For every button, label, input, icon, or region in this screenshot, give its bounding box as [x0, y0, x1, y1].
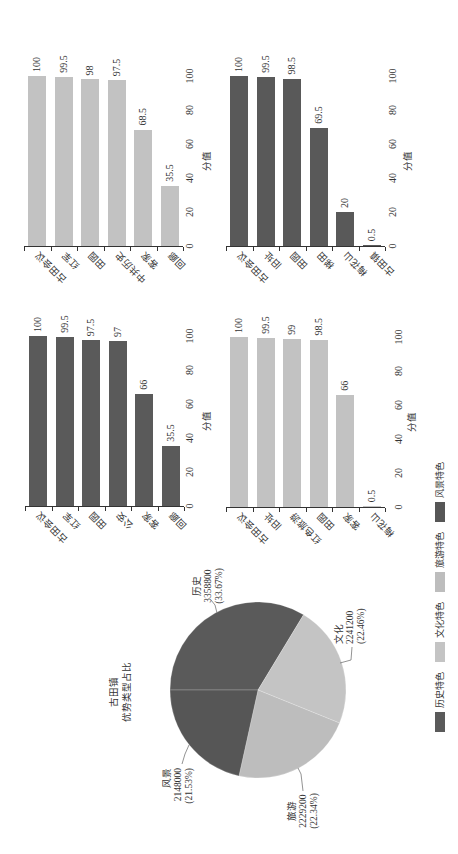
- bar[interactable]: [162, 446, 180, 506]
- value-tick-label: 20: [184, 467, 196, 477]
- pie-label-history: 历史 3358800 (33.67%): [192, 568, 225, 604]
- slice-name: 文化: [334, 608, 345, 644]
- bar[interactable]: [230, 76, 248, 246]
- bar-value-label: 100: [230, 57, 248, 72]
- bar[interactable]: [257, 338, 275, 507]
- bar-value-label: 99.5: [257, 55, 275, 73]
- bar[interactable]: [109, 341, 127, 506]
- bar[interactable]: [135, 394, 153, 506]
- bar[interactable]: [336, 395, 354, 507]
- category-axis-tick: [77, 247, 78, 251]
- bar[interactable]: [257, 77, 275, 246]
- category-axis-tick: [52, 507, 53, 511]
- bar[interactable]: [82, 340, 100, 506]
- slice-value: 2229200: [298, 793, 309, 829]
- value-tick-label: 60: [393, 400, 405, 410]
- category-axis-tick: [104, 247, 105, 251]
- value-tick-label: 80: [387, 105, 399, 115]
- category-axis-tick: [279, 247, 280, 251]
- legend: 历史特色 文化特色 旅游特色 风景特色: [434, 452, 446, 732]
- bar[interactable]: [56, 337, 74, 506]
- bar-value-label: 100: [28, 57, 46, 72]
- category-axis-tick: [226, 247, 227, 251]
- bar[interactable]: [134, 130, 152, 246]
- category-axis-tick: [253, 247, 254, 251]
- pie-label-scenery: 风景 2148000 (21.53%): [162, 768, 195, 804]
- leader-line-scenery: [182, 745, 189, 764]
- value-tick-label: 100: [387, 69, 399, 84]
- bar[interactable]: [310, 128, 328, 246]
- value-tick-label: 40: [387, 173, 399, 183]
- bar[interactable]: [28, 76, 46, 246]
- legend-label: 风景特色: [434, 462, 446, 498]
- category-axis-tick: [385, 247, 386, 251]
- bar[interactable]: [283, 339, 301, 507]
- bar-value-label: 98.5: [283, 57, 301, 75]
- category-axis-tick: [359, 247, 360, 251]
- slice-name: 历史: [192, 568, 203, 604]
- value-axis-title: 分值: [406, 412, 418, 432]
- category-axis-tick: [105, 507, 106, 511]
- legend-label: 历史特色: [434, 672, 446, 708]
- category-axis-tick: [130, 247, 131, 251]
- value-tick-label: 40: [393, 434, 405, 444]
- bar-value-label: 98.5: [310, 318, 328, 336]
- bar-value-label: 69.5: [310, 106, 328, 124]
- bar[interactable]: [336, 212, 354, 246]
- bar[interactable]: [310, 340, 328, 507]
- bar-value-label: 98: [81, 65, 99, 75]
- category-axis-tick: [332, 247, 333, 251]
- bar[interactable]: [29, 336, 47, 506]
- value-tick-label: 0: [184, 504, 196, 509]
- bar[interactable]: [108, 80, 126, 246]
- bar[interactable]: [363, 506, 381, 507]
- slice-percent: (22.46%): [356, 608, 367, 644]
- bar-value-label: 0.5: [363, 490, 381, 503]
- bar-value-label: 99: [283, 325, 301, 335]
- legend-item-tourism[interactable]: 旅游特色: [434, 532, 446, 592]
- leader-line-culture: [340, 647, 352, 663]
- value-tick-label: 80: [184, 365, 196, 375]
- category-axis-tick: [359, 508, 360, 512]
- value-tick-label: 0: [184, 244, 196, 249]
- bar-value-label: 99.5: [257, 316, 275, 334]
- bar[interactable]: [81, 79, 99, 246]
- value-tick-label: 100: [184, 329, 196, 344]
- pie-label-culture: 文化 2241200 (22.46%): [334, 608, 367, 644]
- legend-label: 旅游特色: [434, 532, 446, 568]
- value-tick-label: 80: [184, 105, 196, 115]
- bar-value-label: 68.5: [134, 108, 152, 126]
- category-axis-tick: [226, 508, 227, 512]
- category-axis-tick: [24, 247, 25, 251]
- bar-value-label: 0.5: [363, 229, 381, 242]
- bar[interactable]: [230, 337, 248, 507]
- value-tick-label: 0: [393, 505, 405, 510]
- value-tick-label: 20: [184, 207, 196, 217]
- bar[interactable]: [55, 77, 73, 246]
- legend-item-scenery[interactable]: 风景特色: [434, 462, 446, 522]
- pie-label-tourism: 旅游 2229200 (22.34%): [287, 793, 320, 829]
- slice-percent: (21.53%): [184, 768, 195, 804]
- bar-value-label: 99.5: [56, 315, 74, 333]
- category-axis-tick: [332, 508, 333, 512]
- category-axis-tick: [279, 508, 280, 512]
- bar[interactable]: [283, 79, 301, 246]
- category-axis-tick: [385, 508, 386, 512]
- bar-value-label: 35.5: [162, 424, 180, 442]
- bar-value-label: 66: [336, 381, 354, 391]
- bar-value-label: 100: [230, 318, 248, 333]
- value-axis-title: 分值: [402, 151, 414, 171]
- legend-item-history[interactable]: 历史特色: [434, 672, 446, 732]
- bar[interactable]: [363, 245, 381, 246]
- legend-item-culture[interactable]: 文化特色: [434, 602, 446, 662]
- value-axis-title: 分值: [201, 151, 213, 171]
- category-axis-tick: [306, 247, 307, 251]
- category-axis-tick: [306, 508, 307, 512]
- legend-swatch: [435, 502, 445, 522]
- category-axis-tick: [51, 247, 52, 251]
- value-tick-label: 60: [387, 139, 399, 149]
- category-axis-tick: [131, 507, 132, 511]
- bar-value-label: 99.5: [55, 55, 73, 73]
- bar[interactable]: [161, 186, 179, 246]
- slice-name: 风景: [162, 768, 173, 804]
